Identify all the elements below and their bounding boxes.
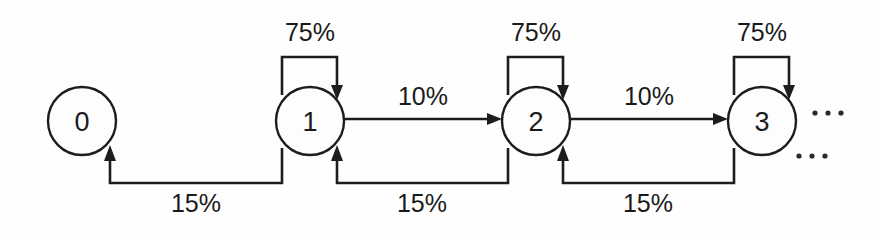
forward-label-2-3: 10%	[624, 82, 674, 110]
node-group-2: 2	[502, 87, 570, 155]
state-diagram-canvas: 0 1 2 3 75% 75% 75% 10% 10% 15% 15% 15%	[0, 0, 879, 235]
feedback-label-2-1: 15%	[397, 189, 447, 217]
state-node-label-3: 3	[754, 107, 769, 137]
feedback-group-3-2	[557, 145, 734, 183]
feedback-label-3-2: 15%	[623, 189, 673, 217]
forward-group-2-3	[570, 113, 728, 125]
ellipsis-dot	[838, 110, 843, 115]
node-group-1: 1	[276, 87, 344, 155]
node-group-3: 3	[728, 87, 796, 155]
state-node-label-2: 2	[528, 107, 543, 137]
forward-arrowhead-2-3	[713, 113, 728, 125]
ellipsis-dot	[812, 110, 817, 115]
self-loop-label-2: 75%	[511, 18, 561, 46]
ellipsis-lower-icon	[796, 153, 827, 158]
ellipsis-dot	[796, 153, 801, 158]
ellipsis-dot	[822, 153, 827, 158]
forward-group-1-2	[344, 113, 502, 125]
feedback-path-3-2	[563, 148, 734, 183]
feedback-path-1-0	[110, 148, 282, 183]
feedback-path-2-1	[337, 148, 508, 183]
markov-chain-diagram: 0 1 2 3 75% 75% 75% 10% 10% 15% 15% 15%	[0, 0, 879, 235]
state-node-label-1: 1	[302, 107, 317, 137]
self-loop-label-1: 75%	[285, 18, 335, 46]
feedback-label-1-0: 15%	[171, 189, 221, 217]
ellipsis-dot	[825, 110, 830, 115]
self-loop-label-3: 75%	[737, 18, 787, 46]
feedback-group-2-1	[331, 145, 508, 183]
ellipsis-dot	[809, 153, 814, 158]
feedback-arrowhead-1-0	[104, 145, 116, 161]
forward-arrowhead-1-2	[487, 113, 502, 125]
state-node-label-0: 0	[74, 107, 89, 137]
ellipsis-upper-icon	[812, 110, 843, 115]
node-group-0: 0	[48, 87, 116, 155]
forward-label-1-2: 10%	[398, 82, 448, 110]
feedback-group-1-0	[104, 145, 282, 183]
